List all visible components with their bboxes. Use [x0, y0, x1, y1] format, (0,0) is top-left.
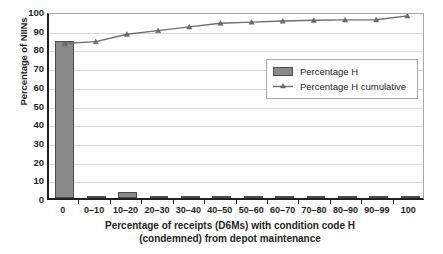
cumulative-line-svg — [49, 14, 423, 198]
x-axis-tick-label: 80–90 — [333, 204, 358, 217]
legend-label-percentage-h: Percentage H — [300, 66, 358, 77]
x-axis-tick-label: 10–20 — [113, 204, 138, 217]
y-axis-tick-label: 60 — [16, 83, 44, 93]
legend-item-percentage-h-cumulative: Percentage H cumulative — [273, 79, 412, 94]
x-axis-tick-label: 50–60 — [239, 204, 264, 217]
y-axis-tick-label: 50 — [16, 102, 44, 112]
x-axis-title-line-2: (condemned) from depot maintenance — [30, 232, 430, 245]
x-axis-tick-label: 30–40 — [176, 204, 201, 217]
y-axis-tick-label: 100 — [16, 8, 44, 18]
x-axis-tick-label: 60–70 — [270, 204, 295, 217]
legend-line-icon — [273, 82, 293, 91]
y-axis-tick-label: 80 — [16, 46, 44, 56]
legend-label-percentage-h-cumulative: Percentage H cumulative — [300, 81, 406, 92]
y-axis-tick-label: 40 — [16, 120, 44, 130]
y-axis-tick-labels: 1009080706050403020100 — [16, 13, 44, 200]
y-axis-tick-label: 30 — [16, 139, 44, 149]
y-axis-tick-label: 0 — [16, 195, 44, 205]
x-axis-tick-label: 0 — [60, 204, 65, 217]
legend-item-percentage-h: Percentage H — [273, 64, 412, 79]
x-axis-tick-label: 40–50 — [207, 204, 232, 217]
y-axis-tick-label: 20 — [16, 158, 44, 168]
x-axis-tick-label: 70–80 — [302, 204, 327, 217]
x-axis-tick-label: 0–10 — [84, 204, 104, 217]
x-axis-tick-label: 20–30 — [144, 204, 169, 217]
x-axis-tick-label: 100 — [401, 204, 416, 217]
x-axis-tick-label: 90–99 — [364, 204, 389, 217]
y-axis-tick-label: 10 — [16, 177, 44, 187]
x-axis-title: Percentage of receipts (D6Ms) with condi… — [30, 219, 430, 245]
legend-line-triangle-swatch-icon — [273, 82, 293, 91]
line-series-percentage-h-cumulative — [49, 14, 423, 198]
y-axis-tick-label: 70 — [16, 64, 44, 74]
plot-area — [47, 13, 424, 200]
x-axis-tick-labels: 00–1010–2020–3030–4040–5050–6060–7070–80… — [47, 204, 424, 218]
x-axis-title-line-1: Percentage of receipts (D6Ms) with condi… — [30, 219, 430, 232]
chart-figure: Percentage of NIINs 10090807060504030201… — [0, 0, 443, 254]
chart-legend: Percentage H Percentage H cumulative — [266, 59, 418, 99]
y-axis-tick-label: 90 — [16, 27, 44, 37]
legend-bar-swatch-icon — [273, 67, 293, 76]
